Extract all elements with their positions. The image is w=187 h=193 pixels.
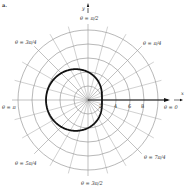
x-axis-label: x xyxy=(181,90,184,96)
figure-marker: a. xyxy=(2,2,7,8)
y-axis xyxy=(87,3,89,13)
angle-label-pi: θ = π xyxy=(2,104,16,110)
angle-label-3pi-over-4: θ = 3π/4 xyxy=(15,39,37,45)
angle-label-3pi-over-2: θ = 3π/2 xyxy=(81,180,103,186)
tick-4: 4 xyxy=(114,103,117,109)
radial-ticks: 2 4 6 8 xyxy=(99,103,144,109)
grid-spoke xyxy=(68,27,88,100)
tick-6: 6 xyxy=(128,103,131,109)
angle-label-pi-over-4: θ = π/4 xyxy=(143,40,162,46)
grid-spoke xyxy=(68,100,88,173)
angle-label-7pi-over-4: θ = 7π/4 xyxy=(144,154,166,160)
angle-label-pi-over-2: θ = π/2 xyxy=(80,15,99,21)
grid-spoke xyxy=(88,27,108,100)
angle-label-5pi-over-4: θ = 5π/4 xyxy=(15,160,37,166)
tick-8: 8 xyxy=(141,103,144,109)
grid-spoke xyxy=(88,100,108,173)
angle-label-zero: θ = 0 xyxy=(164,104,178,110)
y-axis-label: y xyxy=(81,5,85,12)
tick-2: 2 xyxy=(99,103,102,109)
polar-graph: a. x y θ = π/2 θ = π/4 θ = 3π/4 θ = π θ … xyxy=(0,0,187,193)
